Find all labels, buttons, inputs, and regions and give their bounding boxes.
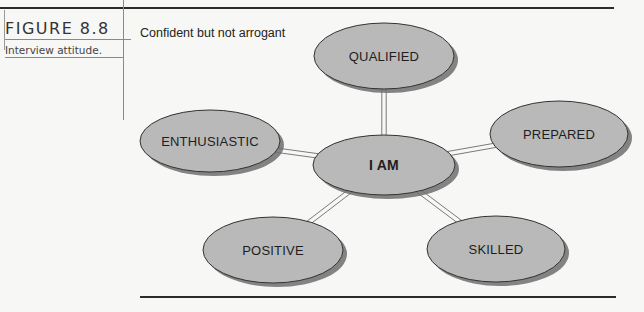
mind-map-diagram (0, 0, 644, 312)
bottom-rule (140, 296, 616, 298)
node-label: QUALIFIED (349, 49, 419, 64)
node-label: SKILLED (469, 242, 524, 257)
node-label: PREPARED (523, 127, 595, 142)
center-node-label: I AM (369, 157, 399, 173)
node-label: ENTHUSIASTIC (161, 134, 259, 149)
node-label: POSITIVE (242, 243, 304, 258)
